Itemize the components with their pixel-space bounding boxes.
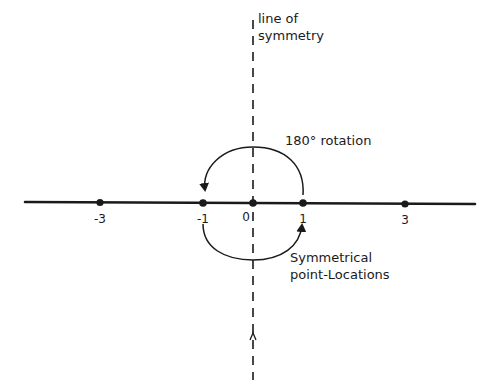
point-minus-1	[199, 199, 207, 207]
symmetric-points-label-line2: point-Locations	[290, 267, 390, 283]
point-1	[299, 199, 307, 207]
symmetry-line-arrow-icon	[250, 333, 256, 340]
symmetry-label-line2: symmetry	[258, 28, 324, 44]
tick-label-0: 0	[242, 210, 250, 224]
tick-label-3: 3	[401, 213, 409, 227]
rotation-label: 180° rotation	[285, 133, 371, 149]
point-0	[249, 199, 257, 207]
tick-label-minus-1: -1	[197, 212, 209, 226]
tick-label-1: 1	[299, 212, 307, 226]
point-3	[401, 200, 408, 207]
number-line-diagram	[0, 0, 495, 384]
symmetry-label-line1: line of	[258, 11, 298, 27]
tick-label-minus-3: -3	[94, 212, 106, 226]
symmetric-points-label-line1: Symmetrical	[290, 250, 372, 266]
rotation-arc-upper	[205, 147, 303, 195]
point-minus-3	[96, 199, 103, 206]
